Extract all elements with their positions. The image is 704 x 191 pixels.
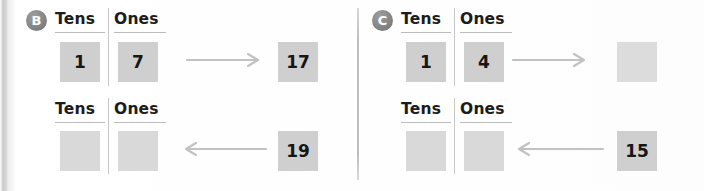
column-divider <box>454 8 455 86</box>
column-header-ones: Ones <box>114 10 159 28</box>
answer-box[interactable]: 19 <box>278 131 318 171</box>
header-rule-ones <box>460 32 512 33</box>
cell-ones-value[interactable] <box>118 131 158 171</box>
problem-panel-b: B Tens Ones 1 7 17 Tens Ones <box>0 0 357 191</box>
answer-box[interactable] <box>617 42 657 82</box>
worksheet-sheet: B Tens Ones 1 7 17 Tens Ones <box>0 0 704 191</box>
problem-panel-c: C Tens Ones 1 4 Tens Ones <box>359 0 704 191</box>
problem-marker-b: B <box>26 10 47 31</box>
problem-marker-c: C <box>372 10 393 31</box>
column-header-ones: Ones <box>114 100 159 118</box>
cell-tens-value[interactable] <box>406 131 446 171</box>
cell-ones-value[interactable] <box>464 131 504 171</box>
cell-ones-value[interactable]: 4 <box>464 42 504 82</box>
column-header-tens: Tens <box>401 100 441 118</box>
header-rule-tens <box>401 122 451 123</box>
arrow-right-icon <box>512 52 594 68</box>
header-rule-ones <box>460 122 512 123</box>
column-divider <box>454 98 455 174</box>
column-header-ones: Ones <box>460 10 505 28</box>
header-rule-tens <box>401 32 451 33</box>
header-rule-ones <box>114 122 166 123</box>
cell-tens-value[interactable]: 1 <box>60 42 100 82</box>
header-rule-ones <box>114 32 166 33</box>
answer-box[interactable]: 17 <box>278 42 318 82</box>
cell-tens-value[interactable]: 1 <box>406 42 446 82</box>
cell-tens-value[interactable] <box>60 131 100 171</box>
column-header-ones: Ones <box>460 100 505 118</box>
column-divider <box>108 98 109 174</box>
header-rule-tens <box>55 122 105 123</box>
header-rule-tens <box>55 32 105 33</box>
arrow-left-icon <box>511 141 607 157</box>
column-divider <box>108 8 109 86</box>
arrow-right-icon <box>186 52 268 68</box>
cell-ones-value[interactable]: 7 <box>118 42 158 82</box>
column-header-tens: Tens <box>55 10 95 28</box>
column-header-tens: Tens <box>55 100 95 118</box>
arrow-left-icon <box>178 141 270 157</box>
answer-box[interactable]: 15 <box>617 131 657 171</box>
column-header-tens: Tens <box>401 10 441 28</box>
